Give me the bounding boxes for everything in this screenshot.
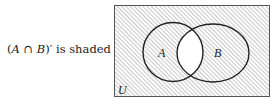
universe-label: U	[118, 83, 128, 97]
set-b-label: B	[214, 46, 222, 60]
set-a-label: A	[157, 46, 166, 60]
venn-diagram: A B U	[0, 0, 277, 105]
